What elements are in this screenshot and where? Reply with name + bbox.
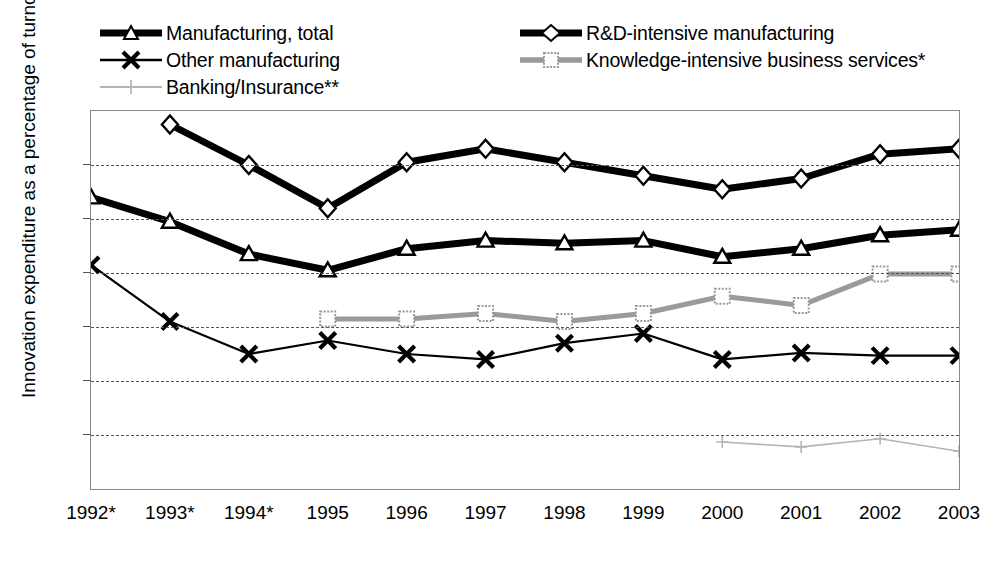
legend-label-knowledge-intensive-business-services: Knowledge-intensive business services* [586,49,925,71]
data-point-marker [715,289,730,304]
legend-key-manufacturing-total [100,22,162,44]
x-tick-label: 1994* [204,502,294,524]
series-5 [716,433,959,457]
x-tick-label: 2002 [835,502,925,524]
data-point-marker [873,267,888,282]
series-2 [162,116,959,218]
y-axis-tick-mark [83,326,91,327]
legend-item-manufacturing-total: Manufacturing, total [100,22,333,44]
x-tick-label: 1997 [441,502,531,524]
data-point-marker [951,140,959,158]
series-1 [91,189,959,276]
legend-label-other-manufacturing: Other manufacturing [166,49,340,71]
gridline [91,435,959,436]
x-tick-label: 2001 [756,502,846,524]
y-axis-tick-mark [83,218,91,219]
data-point-marker [714,180,730,198]
series-lines [91,111,959,489]
x-tick-label: 1992* [46,502,136,524]
series-line [91,197,959,270]
legend-item-banking-insurance: Banking/Insurance** [100,76,339,98]
gridline [91,327,959,328]
plot-area [90,110,960,490]
data-point-marker [91,257,99,273]
chart-legend: Manufacturing, total R&D-intensive manuf… [100,22,960,104]
data-point-marker [399,311,414,326]
x-tick-label: 2003 [914,502,984,524]
x-tick-label: 1995 [283,502,373,524]
data-point-marker [636,306,651,321]
data-point-marker [478,140,494,158]
data-point-marker [478,306,493,321]
x-tick-label: 1999 [598,502,688,524]
x-tick-label: 1996 [362,502,452,524]
legend-key-knowledge-intensive-business-services [520,49,582,71]
x-tick-label: 1998 [519,502,609,524]
series-4 [320,267,959,330]
data-point-marker [794,298,809,313]
gridline [91,381,959,382]
data-point-marker [953,445,959,457]
series-line [91,265,959,360]
y-axis-tick-mark [83,272,91,273]
data-point-marker [716,436,728,448]
gridline [91,219,959,220]
legend-key-other-manufacturing [100,49,162,71]
data-point-marker [793,170,809,188]
gridline [91,165,959,166]
x-tick-label: 2000 [677,502,767,524]
legend-label-banking-insurance: Banking/Insurance** [166,76,339,98]
legend-item-other-manufacturing: Other manufacturing [100,49,340,71]
data-point-marker [795,441,807,453]
legend-label-rd-intensive-manufacturing: R&D-intensive manufacturing [586,22,834,44]
legend-label-manufacturing-total: Manufacturing, total [166,22,333,44]
series-line [722,439,959,451]
y-axis-tick-mark [83,380,91,381]
y-axis-title: Innovation expenditure as a percentage o… [18,0,40,398]
data-point-marker [320,311,335,326]
gridline [91,273,959,274]
y-axis-tick-mark [83,164,91,165]
legend-item-rd-intensive-manufacturing: R&D-intensive manufacturing [520,22,834,44]
legend-key-banking-insurance [100,76,162,98]
data-point-marker [556,153,572,171]
legend-key-rd-intensive-manufacturing [520,22,582,44]
data-point-marker [635,167,651,185]
legend-item-knowledge-intensive-business-services: Knowledge-intensive business services* [520,49,925,71]
data-point-marker [872,145,888,163]
y-axis-tick-mark [83,434,91,435]
x-tick-label: 1993* [125,502,215,524]
data-point-marker [952,267,960,282]
